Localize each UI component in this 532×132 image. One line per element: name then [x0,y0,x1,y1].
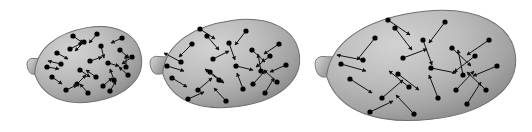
particle-dot [283,62,288,67]
particle-dot [119,35,124,40]
particle-dot [486,37,491,42]
particle-dot [125,72,130,77]
particle-dot [197,26,202,31]
particle-dot [49,74,54,79]
particle-dot [93,74,98,79]
particle-dot [460,72,465,77]
particle-dot [360,57,365,62]
particle-dot [449,45,454,50]
particle-dot [195,87,200,92]
particle-dot [276,41,281,46]
particle-dot [347,76,352,81]
balloon-3 [315,2,521,129]
particle-dot [207,69,212,74]
particle-dot [100,83,105,88]
particle-dot [63,87,68,92]
particle-dot [58,61,63,66]
particle-dot [243,28,248,33]
particle-dot [226,40,231,45]
particle-dot [483,87,488,92]
particle-dot [442,19,447,24]
particle-dot [400,55,405,60]
particle-dot [372,35,377,40]
particle-dot [472,53,477,58]
particle-dot [240,86,245,91]
particle-dot [94,31,99,36]
particle-dot [189,41,194,46]
particle-dot [44,64,49,69]
particle-dot [185,96,190,101]
particle-dot [178,59,183,64]
particle-dot [164,63,169,68]
figure-root [0,0,532,132]
particle-dot [385,17,390,22]
particle-dot [435,95,440,100]
particle-dot [54,50,59,55]
particle-dot [87,58,92,63]
particle-dot [379,95,384,100]
particle-dot [262,90,267,95]
particle-dot [70,33,75,38]
particle-dot [494,63,499,68]
balloon-2-body [157,12,306,116]
particle-dot [117,47,122,52]
balloon-1 [27,19,148,111]
particle-dot [129,54,134,59]
particle-dot [428,65,433,70]
particle-dot [274,79,279,84]
particle-dot [233,63,238,68]
particle-dot [250,81,255,86]
particle-dot [210,56,215,61]
particle-dot [67,46,72,51]
particle-dot [420,37,425,42]
particle-dot [338,61,343,66]
balloons-figure [0,0,532,132]
particle-dot [223,98,228,103]
particle-dot [453,87,458,92]
balloon-3-body [321,2,521,129]
particle-dot [77,67,82,72]
particle-dot [85,90,90,95]
particle-dot [107,88,112,93]
particle-dot [249,47,254,52]
particle-dot [267,53,272,58]
particle-dot [105,60,110,65]
particle-dot [367,109,372,114]
particle-dot [169,75,174,80]
particle-dot [464,101,469,106]
particle-dot [395,71,400,76]
particle-dot [98,43,103,48]
particle-dot [411,111,416,116]
particle-dot [406,84,411,89]
particle-dot [123,64,128,69]
